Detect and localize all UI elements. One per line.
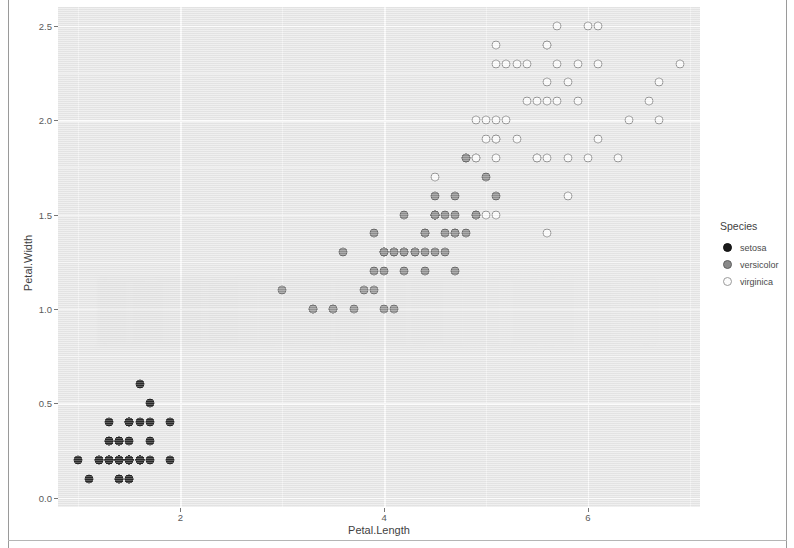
data-point-versicolor [492,191,501,200]
gridline-y-major [58,26,700,28]
data-point-setosa [145,399,154,408]
data-point-setosa [125,436,134,445]
data-point-virginica [512,135,521,144]
legend-item-virginica[interactable]: virginica [720,273,790,290]
data-point-versicolor [329,304,338,313]
gridline-x-minor [486,7,487,507]
circle-icon [723,243,732,252]
data-point-versicolor [431,191,440,200]
data-point-versicolor [482,172,491,181]
data-point-setosa [166,455,175,464]
gridline-y-major [58,120,700,122]
data-point-virginica [563,153,572,162]
data-point-setosa [166,418,175,427]
data-point-versicolor [369,286,378,295]
gridline-y-minor [58,356,700,357]
plot-panel [58,7,700,507]
data-point-setosa [115,455,124,464]
data-point-setosa [104,418,113,427]
legend-label: versicolor [740,260,779,270]
legend-title: Species [720,220,790,232]
y-tick-mark [54,403,58,404]
data-point-virginica [482,210,491,219]
gridline-y-minor [58,73,700,74]
data-point-virginica [512,59,521,68]
y-axis-label: Petal.Width [22,203,34,323]
data-point-setosa [125,474,134,483]
data-point-virginica [431,172,440,181]
data-point-versicolor [308,304,317,313]
legend: Species setosaversicolorvirginica [720,220,790,290]
gridline-x-major [180,7,182,507]
data-point-virginica [655,116,664,125]
gridline-x-minor [690,7,691,507]
legend-label: virginica [740,277,773,287]
data-point-virginica [492,210,501,219]
data-point-versicolor [461,229,470,238]
data-point-virginica [502,116,511,125]
data-point-setosa [135,418,144,427]
data-point-virginica [532,153,541,162]
data-point-versicolor [441,210,450,219]
x-tick-mark [384,508,385,512]
data-point-versicolor [369,267,378,276]
gridline-y-major [58,403,700,405]
data-point-versicolor [400,267,409,276]
data-point-versicolor [441,229,450,238]
data-point-versicolor [471,210,480,219]
data-point-virginica [543,229,552,238]
x-tick-mark [180,508,181,512]
data-point-virginica [492,135,501,144]
legend-key-setosa [720,240,735,255]
data-point-versicolor [390,304,399,313]
data-point-versicolor [380,267,389,276]
data-point-setosa [84,474,93,483]
legend-item-versicolor[interactable]: versicolor [720,256,790,273]
y-tick-label: 2.5 [18,20,52,31]
data-point-virginica [543,40,552,49]
data-point-virginica [563,78,572,87]
data-point-versicolor [400,248,409,257]
gridline-x-minor [78,7,79,507]
data-point-virginica [471,116,480,125]
data-point-virginica [492,40,501,49]
x-tick-label: 6 [585,512,590,523]
data-point-versicolor [431,248,440,257]
gridline-y-minor [58,450,700,451]
data-point-virginica [655,78,664,87]
legend-label: setosa [740,243,767,253]
gridline-y-minor [58,262,700,263]
data-point-versicolor [420,248,429,257]
data-point-virginica [645,97,654,106]
gridline-x-major [384,7,386,507]
data-point-versicolor [390,248,399,257]
data-point-setosa [94,455,103,464]
data-point-virginica [594,21,603,30]
data-point-setosa [104,455,113,464]
data-point-versicolor [380,248,389,257]
data-point-virginica [482,116,491,125]
data-point-virginica [675,59,684,68]
circle-icon [723,260,732,269]
data-point-versicolor [380,304,389,313]
scatter-plot: 0.00.51.01.52.02.5 246 Petal.Length Peta… [0,0,794,548]
gridline-x-major [588,7,590,507]
data-point-versicolor [451,210,460,219]
data-point-versicolor [461,153,470,162]
data-point-virginica [492,59,501,68]
data-point-virginica [553,21,562,30]
data-point-versicolor [420,267,429,276]
circle-icon [723,277,732,286]
data-point-virginica [594,59,603,68]
data-point-virginica [532,97,541,106]
data-point-virginica [471,153,480,162]
data-point-virginica [492,153,501,162]
data-point-versicolor [349,304,358,313]
data-point-versicolor [359,286,368,295]
data-point-virginica [583,21,592,30]
y-tick-mark [54,309,58,310]
data-point-virginica [573,97,582,106]
x-tick-label: 2 [178,512,183,523]
legend-entries: setosaversicolorvirginica [720,239,790,290]
legend-item-setosa[interactable]: setosa [720,239,790,256]
